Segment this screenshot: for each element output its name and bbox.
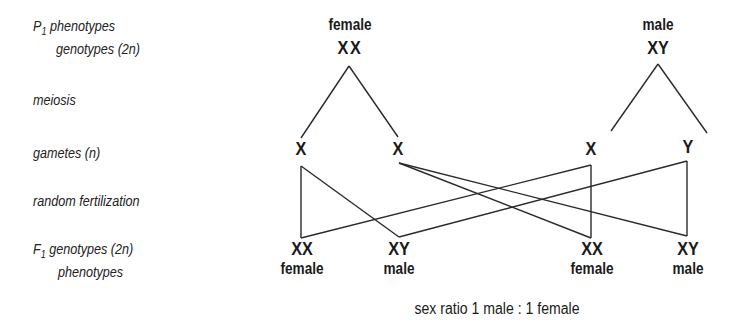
male-parent-genotype: XY (647, 38, 669, 59)
gamete-male-x: X (586, 139, 597, 160)
cross-lines (0, 0, 740, 329)
female-parent-genotype: XX (337, 38, 362, 59)
male-parent-phenotype: male (643, 16, 674, 34)
gamete-female-x1: X (296, 139, 307, 160)
offspring-3-phenotype: female (570, 260, 613, 278)
offspring-2-genotype: XY (388, 239, 410, 260)
offspring-4-phenotype: male (673, 260, 704, 278)
offspring-3-genotype: XX (581, 239, 603, 260)
offspring-4-genotype: XY (677, 239, 699, 260)
offspring-2-phenotype: male (384, 260, 415, 278)
female-parent-phenotype: female (328, 16, 371, 34)
offspring-1-genotype: XX (291, 239, 313, 260)
offspring-1-phenotype: female (280, 260, 323, 278)
gamete-male-y: Y (683, 137, 694, 158)
gamete-female-x2: X (393, 139, 404, 160)
sex-ratio-summary: sex ratio 1 male : 1 female (414, 300, 579, 318)
